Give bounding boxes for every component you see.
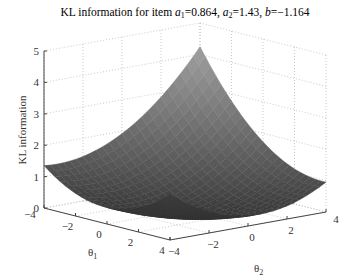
x-tick-label: −4	[24, 208, 36, 220]
x-tick-label: −2	[62, 220, 74, 232]
x-tick-label: 0	[96, 228, 102, 240]
z-tick-label: 2	[34, 139, 40, 151]
y-tick-label: 0	[249, 231, 255, 243]
y-tick-label: 4	[333, 213, 339, 225]
z-tick-label: 4	[34, 76, 40, 88]
x-tick-label: 2	[128, 236, 134, 248]
x-tick-label: 4	[159, 244, 165, 256]
z-tick-label: 1	[34, 171, 40, 183]
z-tick-label: 5	[34, 45, 40, 57]
x-axis-label: θ1	[88, 246, 97, 261]
chart-title: KL information for item a1=0.864, a2=1.4…	[60, 6, 309, 20]
z-axis-label: KL information	[16, 95, 28, 164]
y-tick-label: 2	[288, 224, 294, 236]
kl-surface-chart: KL information for item a1=0.864, a2=1.4…	[0, 0, 351, 280]
y-axis-label: θ2	[254, 262, 263, 277]
y-tick-label: −2	[207, 238, 219, 250]
y-tick-label: −4	[168, 245, 180, 257]
kl-surface	[44, 47, 326, 220]
z-tick-label: 3	[34, 108, 40, 120]
